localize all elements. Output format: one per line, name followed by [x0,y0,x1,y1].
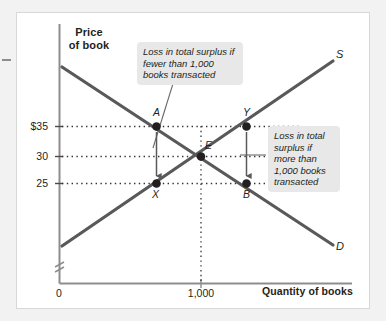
point-marker-x [152,179,161,188]
point-label-b: B [243,188,250,200]
demand-curve-label: D [336,240,344,252]
point-marker-b [242,179,251,188]
callout-loss-fewer: Loss in total surplus if fewer than 1,00… [137,42,243,85]
y-tick-label-25: 25 [8,177,48,189]
point-label-a: A [153,106,160,118]
point-label-y: Y [243,106,250,118]
x-tick-label-1000: 1,000 [176,287,226,299]
point-marker-y [242,122,251,131]
point-marker-e [197,152,206,161]
point-marker-a [152,122,161,131]
economics-surplus-figure: Price of book Quantity of books $35 30 2… [0,0,386,321]
x-tick-label-0: 0 [34,287,84,299]
y-tick-label-30: 30 [8,150,48,162]
supply-curve-label: S [336,48,343,60]
callout-loss-more: Loss in total surplus if more than 1,000… [268,126,340,192]
y-tick-label-35: $35 [8,120,48,132]
y-axis-title: Price of book [46,26,132,52]
point-label-x: X [152,188,159,200]
y-axis-title-line2: of book [69,39,109,51]
x-axis-title: Quantity of books [262,285,353,297]
y-axis-title-line1: Price [75,26,102,38]
point-label-e: E [205,139,212,151]
